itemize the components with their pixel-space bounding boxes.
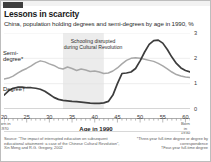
- page-title: Lessons in scarcity: [4, 9, 79, 19]
- x-tick-label-30: 30: [46, 114, 52, 120]
- chart-subtitle: China, population holding degrees and se…: [4, 20, 194, 27]
- x-axis: 202530354045505560Born in1970Born in1930: [4, 110, 190, 118]
- x-tick-label-20: 20: [1, 114, 7, 120]
- footnotes: *Three-year full-time degree or degree b…: [130, 137, 208, 151]
- chart-card: Lessons in scarcity China, population ho…: [0, 0, 211, 162]
- top-bar: [0, 0, 211, 6]
- born-in-right: Born in1930: [181, 122, 190, 136]
- x-tick-label-35: 35: [69, 114, 75, 120]
- annotation-line-2: during Cultural Revolution: [56, 44, 130, 50]
- x-tick-label-40: 40: [92, 114, 98, 120]
- source-note: Source: “The impact of interrupted educa…: [4, 137, 122, 151]
- born-in-right-label: Born in: [181, 121, 190, 131]
- x-tick-label-45: 45: [114, 114, 120, 120]
- footer-divider: [4, 131, 190, 132]
- born-in-left: Born in1970: [0, 122, 11, 131]
- x-tick-label-25: 25: [24, 114, 30, 120]
- series-label-degree: Degree†: [3, 86, 25, 92]
- y-tick-label-1: 1: [194, 80, 197, 86]
- x-tick-label-60: 60: [182, 114, 188, 120]
- series-label-semi-line2: degree*: [3, 56, 23, 62]
- y-tick-label-0: 0: [194, 106, 197, 112]
- annotation-cultural-revolution: Schooling disrupted during Cultural Revo…: [56, 38, 130, 50]
- brand-rule-icon: [3, 2, 23, 8]
- born-in-left-year: 1970: [0, 126, 9, 131]
- x-tick-label-55: 55: [160, 114, 166, 120]
- footnote-2: †Four-year full-time degree: [130, 146, 208, 151]
- y-tick-label-3: 3: [194, 30, 197, 36]
- series-label-semi-degree: Semi- degree*: [3, 50, 23, 63]
- y-axis-labels: 0123: [191, 33, 209, 113]
- y-tick-label-2: 2: [194, 55, 197, 61]
- x-tick-label-50: 50: [137, 114, 143, 120]
